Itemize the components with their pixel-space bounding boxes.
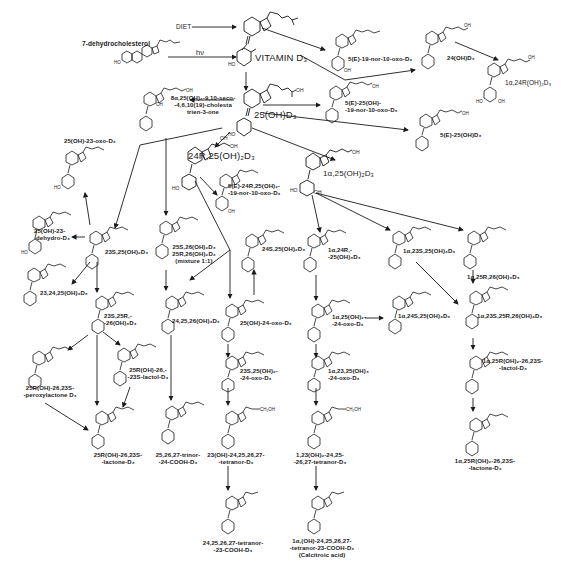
label-tetranor-cooh-text: 24,25,26,27-tetranor- -23-COOH-D₃ (188, 540, 278, 554)
label-25oh-23-dehydro: 25(OH)-23- -dehydro-D₃ (34, 228, 70, 242)
label-1a25r-lactone-text: 1α,25R(OH)₂-26,23S- -lactone-D₃ (440, 458, 530, 472)
label-242526: 24,25,26(OH)₃D₃ (172, 318, 220, 325)
label-calcitroic-acid-text: 1α,(OH)-24,25,26,27- -tetranor-23-COOH-D… (276, 538, 368, 559)
label-1a25r-lactol-text: 1α,25R(OH)₂-26,23S- -lactol-D₃ (468, 358, 558, 372)
molecule-24oh: OH (418, 25, 478, 79)
svg-text:OH: OH (230, 143, 238, 149)
svg-text:CH₂OH: CH₂OH (346, 407, 361, 412)
label-lactol-25r: 25R(OH)-26,- -23S-lactol-D₃ (118, 367, 178, 381)
molecule-1a23s25r26 (462, 285, 522, 339)
molecule-calcitroic-acid (304, 490, 364, 539)
label-25oh-d3: 25(OH)D₃ (254, 109, 297, 120)
label-vitamin-d3: VITAMIN D₃ (255, 52, 307, 63)
label-peroxylactone: 25R(OH)-26,23S- -peroxylactone D₃ (14, 385, 86, 399)
svg-text:OH: OH (462, 111, 469, 116)
label-1a24s25: 1α,24S,25(OH)₃D₃ (398, 313, 450, 320)
label-1a2325-24-oxo: 1α,23,25(OH)₃ -24-oxo-D₃ (328, 368, 369, 382)
svg-text:OH: OH (314, 189, 322, 195)
label-25oh-24-oxo: 25(OH)-24-oxo-D₃ (240, 320, 292, 327)
molecule-232425 (20, 262, 80, 311)
label-1a23s25: 1α,23S,25(OH)₃D₃ (403, 248, 455, 255)
molecule-lactone (88, 405, 148, 454)
svg-text:HO: HO (476, 99, 483, 104)
label-5e-25oh: 5(E)-25(OH)D₃ (440, 132, 481, 139)
molecule-tetranor-23oh: CH₂OH (218, 405, 278, 454)
label-hv: hν (196, 48, 204, 57)
svg-text:OH: OH (372, 84, 379, 89)
label-23s25-24-oxo-text: 23S,25(OH)₂- -24-oxo-D₃ (240, 368, 278, 382)
label-8a25-ketone: 8α,25(OH)₂-9,10-seco- -4,6,10(19)-choles… (163, 95, 243, 116)
molecule-vitamin-d3: HO (234, 12, 304, 78)
molecule-1a25r26 (460, 225, 520, 279)
molecule-trinor (158, 400, 218, 449)
label-25oh-23-oxo: 25(OH)-23-oxo-D₃ (64, 138, 116, 145)
svg-text:HO: HO (172, 185, 180, 191)
label-diet: DIET (176, 22, 191, 31)
svg-text:OH: OH (228, 209, 235, 214)
svg-text:OH: OH (352, 149, 360, 155)
label-1a25r-lactol: 1α,25R(OH)₂-26,23S- -lactol-D₃ (468, 358, 558, 372)
label-tetranor-cooh: 24,25,26,27-tetranor- -23-COOH-D₃ (188, 540, 278, 554)
svg-text:HO: HO (228, 131, 236, 137)
label-calcitroic-acid: 1α,(OH)-24,25,26,27- -tetranor-23-COOH-D… (276, 538, 368, 559)
label-5e-24r25-text: 5(E)-24R,25(OH)₂- -19-nor-10-oxo-D₃ (228, 183, 280, 197)
label-1a24r25-text: 1α,24R,- -25(OH)₃D₃ (328, 247, 361, 261)
svg-text:OH: OH (528, 55, 535, 60)
label-1-tetranor-text: 1,23(OH)₂-24,25- -26,27-tetranor-D₃ (280, 452, 360, 466)
label-1a24r25: 1α,24R,- -25(OH)₃D₃ (328, 247, 361, 261)
label-1a25-24-oxo: 1α,25(OH)₂- -24-oxo-D₃ (332, 314, 366, 328)
label-25oh-23-dehydro-text: 25(OH)-23- -dehydro-D₃ (34, 228, 70, 242)
label-5e-24r25: 5(E)-24R,25(OH)₂- -19-nor-10-oxo-D₃ (228, 183, 280, 197)
label-5e-25oh-19-nor-text: 5(E)-25(OH)- -19-nor-10-oxo-D₃ (345, 100, 397, 114)
label-1a2325-24-oxo-text: 1α,23,25(OH)₃ -24-oxo-D₃ (328, 368, 369, 382)
svg-text:HO: HO (228, 61, 236, 67)
label-1a24r: 1α,24R(OH)₂D₃ (505, 78, 551, 87)
label-5e-19-nor: 5(E)-19-nor-10-oxo-D₃ (348, 56, 412, 63)
label-mixture-2526: 25S,26(OH)₂D₃ 25R,26(OH)₂D₃ (mixture 1:1… (168, 244, 220, 265)
label-5e-25oh-19-nor: 5(E)-25(OH)- -19-nor-10-oxo-D₃ (345, 100, 397, 114)
svg-text:OH: OH (156, 102, 163, 107)
svg-text:OH: OH (186, 88, 193, 93)
label-23s25r26: 23S,25R,- -26(OH)₃D₃ (104, 313, 137, 327)
svg-text:OH: OH (498, 99, 505, 104)
svg-text:OH: OH (296, 87, 304, 93)
label-24r25: 24R,25(OH)₂D₃ (188, 150, 255, 161)
label-mixture-2526-text: 25S,26(OH)₂D₃ 25R,26(OH)₂D₃ (mixture 1:1… (168, 244, 220, 265)
molecule-1-tetranor: CH₂OH (304, 405, 364, 454)
label-7-dehydrocholesterol: 7-dehydrocholesterol (82, 40, 150, 47)
molecule-5e-19-nor-10-oxo: OH (328, 30, 388, 79)
label-lactol-25r-text: 25R(OH)-26,- -23S-lactol-D₃ (118, 367, 178, 381)
svg-text:HO: HO (54, 185, 61, 190)
label-24oh: 24(OH)D₃ (447, 55, 475, 62)
label-23s25-24-oxo: 23S,25(OH)₂- -24-oxo-D₃ (240, 368, 278, 382)
label-1a25: 1α,25(OH)₂D₃ (323, 168, 374, 179)
label-1a25r-lactone: 1α,25R(OH)₂-26,23S- -lactone-D₃ (440, 458, 530, 472)
pathway-diagram: HO HO OH HO OH OH OH (0, 0, 561, 571)
svg-text:HO: HO (21, 250, 28, 255)
label-23s25r26-text: 23S,25R,- -26(OH)₃D₃ (104, 313, 137, 327)
svg-text:HO: HO (290, 187, 298, 193)
label-232425: 23,24,25(OH)₃D₃ (40, 290, 88, 297)
molecule-25oh-23-oxo: HO (58, 145, 118, 199)
svg-text:OH: OH (220, 135, 228, 141)
label-1-tetranor: 1,23(OH)₂-24,25- -26,27-tetranor-D₃ (280, 452, 360, 466)
molecule-242526 (158, 290, 218, 339)
molecule-1a25r-lactone (462, 412, 522, 461)
svg-text:OH: OH (464, 23, 471, 28)
molecule-tetranor-cooh (218, 490, 278, 539)
label-peroxylactone-text: 25R(OH)-26,23S- -peroxylactone D₃ (14, 385, 86, 399)
label-tetranor-23oh: 23(OH)-24,25,26,27- -tetranor-D₃ (196, 452, 276, 466)
svg-text:CH₂OH: CH₂OH (260, 407, 275, 412)
svg-text:OH: OH (344, 68, 351, 73)
svg-text:HO: HO (114, 60, 121, 65)
label-8a25-line: 8α,25(OH)₂-9,10-seco- -4,6,10(19)-choles… (163, 95, 243, 116)
label-tetranor-23oh-text: 23(OH)-24,25,26,27- -tetranor-D₃ (196, 452, 276, 466)
label-1a25-24-oxo-text: 1α,25(OH)₂- -24-oxo-D₃ (332, 314, 366, 328)
label-1a23s25r26: 1α,23S,25R,26(OH)₄D₃ (477, 313, 542, 320)
label-1a25r26: 1α,25R,26(OH)₃D₃ (467, 274, 520, 281)
label-24s25: 24S,25(OH)₂D₃ (262, 246, 305, 253)
label-23s25: 23S,25(OH)₂D₃ (105, 249, 148, 256)
